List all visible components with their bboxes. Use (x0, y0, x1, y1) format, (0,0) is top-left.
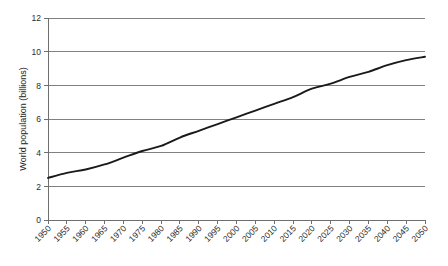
x-tick-label: 1995 (202, 223, 223, 244)
x-tick-label: 1955 (51, 223, 72, 244)
x-tick-label: 2005 (240, 223, 261, 244)
x-tick-label: 2025 (315, 223, 336, 244)
y-tick-label: 4 (36, 148, 41, 158)
x-tick-label-group: 1950195519601965197019751980198519901995… (32, 223, 430, 244)
chart-canvas: 024681012 195019551960196519701975198019… (0, 0, 448, 266)
x-tick-label: 2010 (259, 223, 280, 244)
y-tick-label: 6 (36, 114, 41, 124)
x-tick-label: 1965 (89, 223, 110, 244)
x-tick-label: 1950 (32, 223, 53, 244)
y-axis-title: World population (billions) (18, 67, 28, 170)
x-tick-label: 2045 (391, 223, 412, 244)
gridline-group (48, 18, 425, 186)
x-tick-label: 2020 (296, 223, 317, 244)
x-tick-label: 2030 (334, 223, 355, 244)
y-tick-group (44, 18, 48, 220)
population-curve (48, 57, 425, 178)
y-tick-label: 2 (36, 182, 41, 192)
x-tick-label: 2000 (221, 223, 242, 244)
x-tick-label: 1980 (146, 223, 167, 244)
x-tick-label: 1985 (164, 223, 185, 244)
x-tick-label: 1970 (108, 223, 129, 244)
x-tick-group (48, 220, 425, 224)
y-tick-label-group: 024681012 (32, 13, 42, 225)
y-tick-label: 10 (32, 47, 42, 57)
y-tick-label: 0 (36, 215, 41, 225)
x-tick-label: 1960 (70, 223, 91, 244)
x-tick-label: 2040 (372, 223, 393, 244)
x-tick-label: 2015 (278, 223, 299, 244)
x-tick-label: 2050 (409, 223, 430, 244)
world-population-line-chart: 024681012 195019551960196519701975198019… (0, 0, 448, 266)
y-tick-label: 12 (32, 13, 42, 23)
x-tick-label: 2035 (353, 223, 374, 244)
x-tick-label: 1975 (127, 223, 148, 244)
y-tick-label: 8 (36, 81, 41, 91)
x-tick-label: 1990 (183, 223, 204, 244)
